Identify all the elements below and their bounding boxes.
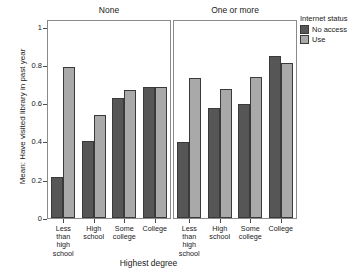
bar: [177, 142, 189, 218]
x-tick-mark: [250, 219, 251, 223]
x-tick-label: Lessthanhighschool: [172, 225, 206, 258]
y-tick-label: 0: [38, 215, 42, 223]
panel-title-none: None: [47, 5, 171, 15]
bar: [250, 77, 262, 218]
x-tick-mark: [189, 219, 190, 223]
y-tick-label: 0.6: [32, 100, 42, 108]
x-axis-title: Highest degree: [0, 258, 297, 268]
bar: [124, 90, 136, 218]
legend-label-no-access: No access: [312, 25, 347, 34]
plot-area-one-or-more: [174, 21, 296, 218]
panel-one-or-more: [173, 20, 297, 219]
x-tick-mark: [63, 219, 64, 223]
bar: [94, 115, 106, 218]
x-tick-label: Highschool: [77, 225, 111, 241]
x-tick-mark: [281, 219, 282, 223]
legend-swatch-no-access: [300, 25, 309, 34]
x-tick-label: Highschool: [203, 225, 237, 241]
x-tick-label: Somecollege: [233, 225, 267, 241]
legend-swatch-use: [300, 35, 309, 44]
y-tick-label: 0.4: [32, 139, 42, 147]
x-tick-label: College: [264, 225, 298, 233]
x-tick-label: Somecollege: [107, 225, 141, 241]
x-tick-mark: [124, 219, 125, 223]
chart-figure: Mean: Have visited library in past year …: [0, 0, 362, 275]
bar: [51, 177, 63, 218]
bar: [269, 56, 281, 218]
y-axis: 00.20.40.60.81: [0, 0, 47, 275]
panel-title-one-or-more: One or more: [173, 5, 297, 15]
bar: [238, 104, 250, 218]
legend-item-use[interactable]: Use: [300, 35, 362, 44]
y-tick-label: 0.2: [32, 177, 42, 185]
plot-area-none: [48, 21, 170, 218]
x-tick-label: College: [138, 225, 172, 233]
legend-label-use: Use: [312, 35, 325, 44]
bar: [189, 78, 201, 218]
bar: [112, 98, 124, 218]
bar: [220, 89, 232, 218]
x-tick-mark: [94, 219, 95, 223]
y-tick-label: 0.8: [32, 62, 42, 70]
bar: [155, 87, 167, 218]
legend-item-no-access[interactable]: No access: [300, 25, 362, 34]
x-tick-mark: [220, 219, 221, 223]
x-tick-mark: [155, 219, 156, 223]
y-tick-label: 1: [38, 24, 42, 32]
legend: Internet status No access Use: [300, 14, 362, 45]
x-tick-label: Lessthanhighschool: [46, 225, 80, 258]
bar: [281, 63, 293, 218]
panel-none: [47, 20, 171, 219]
bar: [208, 108, 220, 218]
bar: [143, 87, 155, 218]
bar: [63, 67, 75, 218]
legend-title: Internet status: [300, 14, 362, 23]
bar: [82, 141, 94, 218]
y-tick-mark: [43, 219, 47, 220]
